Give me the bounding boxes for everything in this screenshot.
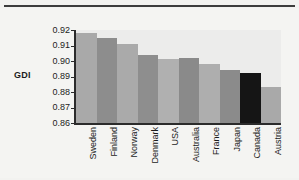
plot-area — [74, 30, 281, 125]
bar-slot — [220, 30, 241, 123]
bar-canada[interactable] — [240, 73, 261, 123]
y-axis-tick-label: 0.86 — [52, 118, 70, 129]
bar-series — [76, 30, 281, 123]
bar-austria[interactable] — [261, 87, 282, 123]
x-label-slot: Denmark — [136, 125, 157, 180]
bar-slot — [138, 30, 159, 123]
chart-body: GDI 0.920.910.900.890.880.870.86 SwedenF… — [0, 8, 299, 178]
top-divider-rule — [4, 5, 295, 7]
bar-france[interactable] — [199, 64, 220, 123]
bar-slot — [199, 30, 220, 123]
bar-norway[interactable] — [117, 44, 138, 123]
y-axis-tick-label: 0.91 — [52, 40, 70, 51]
bar-usa[interactable] — [158, 59, 179, 123]
y-axis-tick-label: 0.89 — [52, 71, 70, 82]
y-axis-tick-label: 0.87 — [52, 102, 70, 113]
y-axis-tick-label: 0.90 — [52, 56, 70, 67]
y-axis-title: GDI — [14, 70, 31, 80]
x-label-slot: Japan — [218, 125, 239, 180]
bar-finland[interactable] — [97, 38, 118, 123]
x-axis-label-austria: Austria — [273, 127, 283, 155]
x-label-slot: Canada — [238, 125, 259, 180]
x-axis-category-labels: SwedenFinlandNorwayDenmarkUSAAustraliaFr… — [74, 125, 279, 180]
bar-japan[interactable] — [220, 70, 241, 123]
x-label-slot: Finland — [95, 125, 116, 180]
bar-slot — [117, 30, 138, 123]
x-label-slot: Sweden — [74, 125, 95, 180]
bar-slot — [76, 30, 97, 123]
x-label-slot: France — [197, 125, 218, 180]
x-label-slot: USA — [156, 125, 177, 180]
y-axis-tick-label: 0.88 — [52, 87, 70, 98]
bar-slot — [240, 30, 261, 123]
bar-slot — [97, 30, 118, 123]
chart-figure: GDI 0.920.910.900.890.880.870.86 SwedenF… — [0, 0, 299, 180]
x-label-slot: Australia — [177, 125, 198, 180]
bar-sweden[interactable] — [76, 33, 97, 123]
bar-slot — [158, 30, 179, 123]
bar-denmark[interactable] — [138, 55, 159, 123]
x-label-slot: Austria — [259, 125, 280, 180]
x-label-slot: Norway — [115, 125, 136, 180]
bar-australia[interactable] — [179, 58, 200, 123]
bar-slot — [179, 30, 200, 123]
y-axis-tick-labels: 0.920.910.900.890.880.870.86 — [38, 30, 70, 126]
y-axis-tick-label: 0.92 — [52, 25, 70, 36]
bar-slot — [261, 30, 282, 123]
